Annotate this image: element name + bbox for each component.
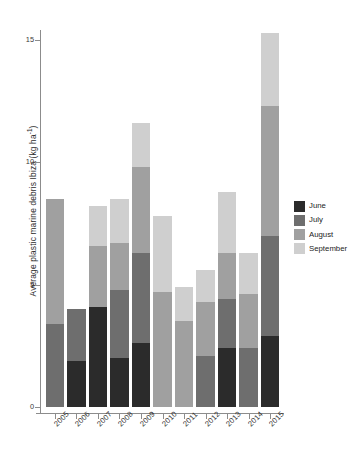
legend-label-september: September xyxy=(309,245,347,253)
bar-segment-2008-july[interactable] xyxy=(110,290,129,359)
bar-segment-2007-june[interactable] xyxy=(89,307,108,407)
bar-segment-2008-september[interactable] xyxy=(110,199,129,243)
bar-segment-2014-july[interactable] xyxy=(239,348,258,407)
y-axis-title-exponent: -1 xyxy=(26,128,33,134)
bar-2006[interactable] xyxy=(67,0,86,407)
bar-segment-2009-september[interactable] xyxy=(132,123,151,167)
legend-item-september[interactable]: September xyxy=(294,242,360,256)
legend-swatch-july xyxy=(294,215,305,226)
legend-swatch-september xyxy=(294,243,305,254)
legend: JuneJulyAugustSeptember xyxy=(294,199,360,256)
legend-label-june: June xyxy=(309,202,326,210)
bar-segment-2009-june[interactable] xyxy=(132,343,151,407)
bar-segment-2009-july[interactable] xyxy=(132,253,151,344)
y-tick-label-15: 15 xyxy=(22,36,34,43)
bar-2012[interactable] xyxy=(196,0,215,407)
bar-segment-2007-august[interactable] xyxy=(89,246,108,307)
bar-2005[interactable] xyxy=(46,0,65,407)
y-tick-label-10: 10 xyxy=(22,158,34,165)
bar-segment-2013-june[interactable] xyxy=(218,348,237,407)
bar-segment-2012-september[interactable] xyxy=(196,270,215,302)
bar-segment-2011-september[interactable] xyxy=(175,287,194,321)
y-tick-15 xyxy=(35,40,40,41)
bar-2008[interactable] xyxy=(110,0,129,407)
bar-segment-2008-august[interactable] xyxy=(110,243,129,289)
bar-segment-2015-july[interactable] xyxy=(261,236,280,336)
y-axis-title: Average plastic marine debris Ibiza (kg … xyxy=(26,86,38,336)
bar-2013[interactable] xyxy=(218,0,237,407)
bar-segment-2015-august[interactable] xyxy=(261,106,280,236)
bar-segment-2006-july[interactable] xyxy=(67,309,86,360)
bar-segment-2008-june[interactable] xyxy=(110,358,129,407)
legend-item-july[interactable]: July xyxy=(294,213,360,227)
bar-segment-2006-june[interactable] xyxy=(67,361,86,407)
bar-segment-2015-september[interactable] xyxy=(261,33,280,106)
bar-segment-2013-august[interactable] xyxy=(218,253,237,299)
bar-segment-2013-july[interactable] xyxy=(218,299,237,348)
bar-2011[interactable] xyxy=(175,0,194,407)
y-tick-0 xyxy=(35,407,40,408)
bar-segment-2014-september[interactable] xyxy=(239,253,258,295)
bar-segment-2010-august[interactable] xyxy=(153,292,172,407)
y-axis-line xyxy=(40,30,41,413)
bar-2014[interactable] xyxy=(239,0,258,407)
bar-2010[interactable] xyxy=(153,0,172,407)
bar-segment-2012-august[interactable] xyxy=(196,302,215,356)
y-tick-5 xyxy=(35,285,40,286)
y-tick-label-5: 5 xyxy=(22,281,34,288)
chart-container: Average plastic marine debris Ibiza (kg … xyxy=(0,0,361,472)
legend-item-august[interactable]: August xyxy=(294,227,360,241)
bar-segment-2015-june[interactable] xyxy=(261,336,280,407)
bar-2007[interactable] xyxy=(89,0,108,407)
bar-segment-2010-september[interactable] xyxy=(153,216,172,292)
y-tick-label-0: 0 xyxy=(22,403,34,410)
bar-2009[interactable] xyxy=(132,0,151,407)
legend-item-june[interactable]: June xyxy=(294,199,360,213)
bar-segment-2005-july[interactable] xyxy=(46,324,65,407)
legend-swatch-june xyxy=(294,201,305,212)
bar-segment-2005-august[interactable] xyxy=(46,199,65,324)
y-axis-title-tail: ) xyxy=(28,125,38,128)
legend-label-july: July xyxy=(309,216,323,224)
legend-swatch-august xyxy=(294,229,305,240)
y-tick-10 xyxy=(35,162,40,163)
bar-segment-2013-september[interactable] xyxy=(218,192,237,253)
bar-segment-2007-september[interactable] xyxy=(89,206,108,245)
x-axis-line xyxy=(36,413,284,414)
bar-segment-2014-august[interactable] xyxy=(239,294,258,348)
bar-2015[interactable] xyxy=(261,0,280,407)
bar-segment-2012-july[interactable] xyxy=(196,356,215,407)
legend-label-august: August xyxy=(309,231,333,239)
bar-segment-2009-august[interactable] xyxy=(132,167,151,253)
bar-segment-2011-august[interactable] xyxy=(175,321,194,407)
